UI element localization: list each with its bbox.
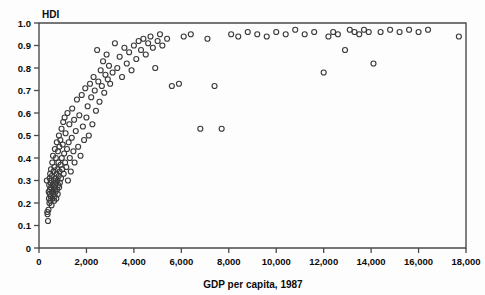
- data-point: [112, 41, 117, 46]
- data-point: [176, 81, 181, 86]
- x-tick-label: 12,000: [309, 256, 338, 267]
- data-point: [155, 39, 160, 44]
- data-point: [106, 63, 111, 68]
- data-point: [153, 66, 158, 71]
- data-point: [169, 84, 174, 89]
- data-point: [371, 61, 376, 66]
- data-point: [98, 68, 103, 73]
- data-point: [89, 95, 94, 100]
- x-tick-label: 0: [36, 256, 41, 267]
- data-point: [407, 27, 412, 32]
- data-point: [85, 104, 90, 109]
- data-point: [141, 36, 146, 41]
- data-point: [321, 70, 326, 75]
- data-point: [302, 32, 307, 37]
- x-tick-label: 2,000: [75, 256, 99, 267]
- y-tick-label: 0.5: [18, 130, 32, 141]
- data-point: [77, 113, 82, 118]
- data-point: [72, 160, 77, 165]
- x-tick-label: 4,000: [122, 256, 146, 267]
- data-point: [335, 32, 340, 37]
- data-point: [229, 32, 234, 37]
- y-tick-label: 0: [26, 243, 31, 254]
- data-point: [219, 126, 224, 131]
- data-point: [357, 32, 362, 37]
- data-point: [117, 54, 122, 59]
- data-point: [69, 135, 74, 140]
- data-point: [61, 171, 66, 176]
- data-point: [326, 34, 331, 39]
- data-point: [73, 129, 78, 134]
- data-point: [205, 36, 210, 41]
- data-point: [88, 81, 93, 86]
- y-axis-ticks: [34, 23, 39, 248]
- x-axis-title: GDP per capita, 1987: [203, 279, 303, 290]
- data-point: [72, 117, 77, 122]
- data-point: [236, 34, 241, 39]
- data-point: [102, 90, 107, 95]
- x-tick-label: 16,000: [404, 256, 433, 267]
- data-point: [129, 68, 134, 73]
- data-point: [91, 75, 96, 80]
- data-point: [104, 52, 109, 57]
- data-point: [283, 32, 288, 37]
- x-tick-label: 8,000: [217, 256, 241, 267]
- data-point: [84, 115, 89, 120]
- y-tick-label: 0.9: [18, 40, 31, 51]
- data-point: [78, 153, 83, 158]
- data-point: [65, 178, 70, 183]
- data-point: [115, 66, 120, 71]
- data-point: [274, 30, 279, 35]
- x-axis-tick-labels: 02,0004,0006,0008,00010,00012,00014,0001…: [36, 256, 480, 267]
- y-tick-label: 0.2: [18, 198, 31, 209]
- data-point: [83, 86, 88, 91]
- data-point: [343, 48, 348, 53]
- y-tick-label: 1.0: [18, 18, 31, 29]
- data-point: [426, 27, 431, 32]
- data-point: [74, 97, 79, 102]
- x-tick-label: 10,000: [262, 256, 291, 267]
- y-tick-label: 0.4: [18, 153, 32, 164]
- data-point: [245, 30, 250, 35]
- data-point: [456, 34, 461, 39]
- data-point: [120, 75, 125, 80]
- data-point: [212, 84, 217, 89]
- data-point: [143, 52, 148, 57]
- data-point: [264, 34, 269, 39]
- data-point: [67, 156, 72, 161]
- data-point: [93, 108, 98, 113]
- y-tick-label: 0.7: [18, 85, 31, 96]
- data-point: [101, 59, 106, 64]
- data-point: [46, 219, 51, 224]
- data-point: [65, 111, 70, 116]
- data-point: [95, 48, 100, 53]
- data-point: [124, 61, 129, 66]
- data-point: [70, 106, 75, 111]
- y-tick-label: 0.6: [18, 108, 31, 119]
- y-tick-label: 0.1: [18, 220, 32, 231]
- data-point: [96, 79, 101, 84]
- data-point: [397, 30, 402, 35]
- data-point: [71, 149, 76, 154]
- data-point: [92, 88, 97, 93]
- data-point: [86, 133, 91, 138]
- data-point: [63, 131, 68, 136]
- data-point: [181, 34, 186, 39]
- data-point: [99, 84, 104, 89]
- data-point: [378, 30, 383, 35]
- data-point: [312, 30, 317, 35]
- y-tick-label: 0.3: [18, 175, 31, 186]
- data-point: [67, 122, 72, 127]
- data-point: [139, 48, 144, 53]
- x-tick-label: 14,000: [357, 256, 386, 267]
- data-point: [131, 43, 136, 48]
- data-point: [97, 99, 102, 104]
- data-point: [108, 81, 113, 86]
- data-point: [388, 27, 393, 32]
- data-point: [160, 43, 165, 48]
- chart-figure: 02,0004,0006,0008,00010,00012,00014,0001…: [0, 0, 485, 295]
- data-point: [122, 45, 127, 50]
- data-point: [188, 32, 193, 37]
- data-point: [150, 45, 155, 50]
- data-point: [90, 122, 95, 127]
